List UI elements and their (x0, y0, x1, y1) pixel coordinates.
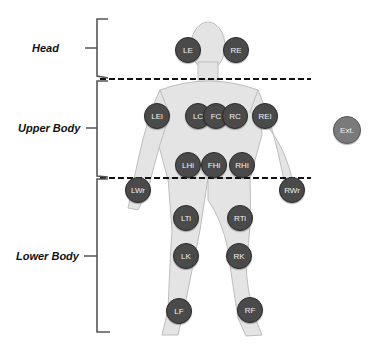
sensor-node-external: Ext. (333, 116, 361, 144)
brace-lower-body (84, 179, 110, 332)
brace-head (85, 19, 108, 78)
body-sensor-diagram: Head Upper Body Lower Body LE RE LEl LC … (0, 0, 379, 351)
sensor-node-FHi: FHi (201, 152, 227, 178)
region-label-upper-body: Upper Body (18, 122, 80, 134)
sensor-node-LHi: LHi (175, 152, 201, 178)
sensor-node-LWr: LWr (125, 177, 151, 203)
sensor-node-RK: RK (226, 243, 252, 269)
sensor-node-LF: LF (166, 298, 192, 324)
sensor-node-RWr: RWr (279, 177, 305, 203)
sensor-node-RF: RF (237, 297, 263, 323)
region-label-lower-body: Lower Body (16, 250, 79, 262)
sensor-node-RTi: RTi (227, 205, 253, 231)
sensor-node-REl: REl (252, 103, 278, 129)
sensor-node-RC: RC (222, 103, 248, 129)
sensor-node-LK: LK (173, 243, 199, 269)
brace-upper-body (86, 81, 108, 177)
sensor-node-LE: LE (175, 37, 201, 63)
region-label-head: Head (32, 42, 59, 54)
sensor-node-RHi: RHi (229, 152, 255, 178)
sensor-node-LTi: LTi (173, 205, 199, 231)
sensor-node-LEl: LEl (144, 103, 170, 129)
sensor-node-RE: RE (223, 37, 249, 63)
